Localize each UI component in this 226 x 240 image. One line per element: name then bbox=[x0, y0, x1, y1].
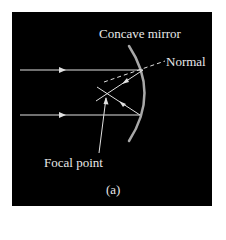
figure-caption: (a) bbox=[106, 183, 120, 196]
concave-mirror-label: Concave mirror bbox=[99, 27, 181, 40]
ray-arrow-bottom-icon bbox=[59, 112, 66, 118]
ray-arrow-top-icon bbox=[59, 67, 66, 73]
reflected-arrow-top-icon bbox=[122, 78, 129, 84]
normal-label: Normal bbox=[166, 55, 206, 68]
reflected-arrow-bottom-icon bbox=[119, 101, 126, 107]
reflected-ray-bottom bbox=[97, 87, 140, 115]
focal-point-pointer bbox=[99, 98, 106, 153]
pointer-arrow-icon bbox=[104, 97, 109, 105]
concave-mirror bbox=[129, 46, 145, 141]
normal-line bbox=[104, 61, 165, 82]
reflected-ray-top bbox=[96, 70, 143, 101]
focal-point-label: Focal point bbox=[44, 156, 103, 169]
